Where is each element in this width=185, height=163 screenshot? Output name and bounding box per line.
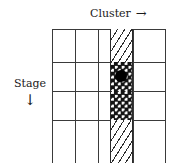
stage-axis-label-group: Stage ↓ [8, 78, 52, 108]
selected-cell-marker [115, 70, 127, 82]
grid-row-line [52, 29, 165, 30]
cluster-stage-figure: Cluster → Stage ↓ [0, 0, 185, 163]
grid-row-line [52, 91, 165, 92]
grid-column-line [133, 29, 134, 163]
grid-column-line [52, 29, 53, 163]
grid [52, 29, 165, 163]
marked-column-band-hatch-bottom [110, 120, 133, 163]
stage-axis-label: Stage [14, 78, 46, 89]
arrow-right-icon: → [136, 7, 147, 20]
cluster-axis-label-group: Cluster → [90, 7, 147, 20]
grid-column-line [98, 29, 99, 163]
grid-row-line [52, 62, 165, 63]
marked-column [110, 29, 133, 163]
grid-row-line [52, 120, 165, 121]
arrow-down-icon: ↓ [24, 93, 37, 108]
cluster-axis-label: Cluster [90, 8, 131, 19]
grid-column-line [165, 29, 166, 163]
marked-column-band-dotted-lower [110, 91, 133, 120]
marked-column-band-hatch-top [110, 29, 133, 62]
grid-column-line [75, 29, 76, 163]
